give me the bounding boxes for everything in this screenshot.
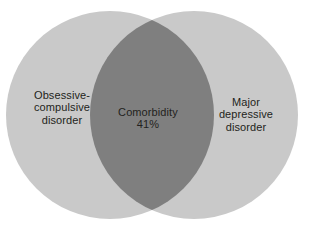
- venn-diagram-figure: Obsessive- compulsive disorder Comorbidi…: [0, 0, 314, 234]
- clipped-caption: [0, 229, 314, 234]
- set-label-left: Obsessive- compulsive disorder: [14, 89, 110, 126]
- set-label-right: Major depressive disorder: [199, 96, 293, 133]
- intersection-label: Comorbidity 41%: [108, 106, 188, 131]
